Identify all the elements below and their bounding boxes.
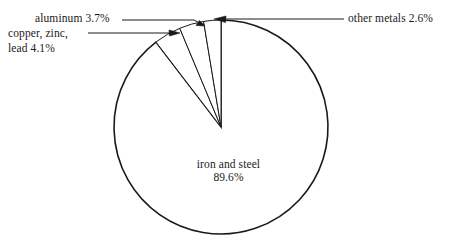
slice-label-aluminum: aluminum 3.7%: [35, 12, 110, 25]
slice-label-iron-and-steel-line1: iron and steel: [0, 158, 457, 171]
slice-label-iron-and-steel-line2: 89.6%: [0, 171, 457, 184]
pie-chart-canvas: [0, 0, 457, 247]
slice-label-copper-zinc-lead-line1: copper, zinc,: [8, 27, 68, 40]
pie-chart-figure: aluminum 3.7% copper, zinc, lead 4.1% ot…: [0, 0, 457, 247]
slice-label-other-metals: other metals 2.6%: [348, 12, 433, 25]
slice-label-iron-and-steel: iron and steel 89.6%: [0, 158, 457, 184]
slice-label-copper-zinc-lead-line2: lead 4.1%: [8, 42, 55, 55]
